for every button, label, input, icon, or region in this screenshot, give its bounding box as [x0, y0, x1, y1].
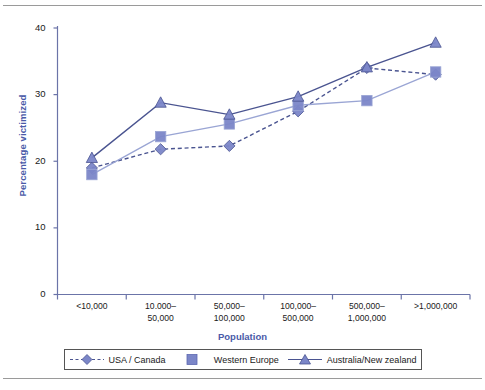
data-point-diamond — [224, 140, 235, 151]
data-point-square — [87, 169, 97, 179]
data-point-triangle — [430, 37, 441, 47]
data-point-diamond — [155, 144, 166, 155]
chart-legend: USA / Canada Western Europe Australia/Ne… — [64, 349, 422, 370]
square-marker-icon — [175, 353, 209, 366]
legend-label-australia-new-zealand: Australia/New zealand — [326, 355, 417, 365]
y-axis-title: Percentage victimized — [17, 91, 28, 201]
y-tick-label: 40 — [20, 22, 46, 33]
y-tick-label: 10 — [20, 221, 46, 232]
x-tick-label: >1,000,000 — [393, 301, 479, 313]
legend-label-usa-canada: USA / Canada — [108, 355, 166, 365]
x-tick-label-line: 1,000,000 — [324, 313, 410, 325]
data-point-square — [155, 131, 165, 141]
y-tick-label: 0 — [20, 288, 46, 299]
series-line-triangle — [92, 43, 436, 158]
series-line-square — [92, 72, 436, 175]
data-point-triangle — [155, 97, 166, 107]
data-point-triangle — [86, 152, 97, 162]
data-point-triangle — [293, 91, 304, 101]
triangle-marker-solid-line-icon — [288, 353, 322, 366]
legend-item-australia-new-zealand[interactable]: Australia/New zealand — [288, 353, 417, 366]
data-point-square — [293, 100, 303, 110]
data-point-square — [224, 119, 234, 129]
x-axis-title: Population — [0, 331, 485, 342]
y-tick-label: 30 — [20, 88, 46, 99]
legend-item-usa-canada[interactable]: USA / Canada — [70, 353, 166, 366]
series-line-diamond — [92, 68, 436, 168]
x-axis-ticks — [58, 295, 471, 300]
x-tick-label-line: >1,000,000 — [393, 301, 479, 313]
y-tick-label: 20 — [20, 155, 46, 166]
series-markers — [86, 37, 441, 180]
data-point-square — [430, 67, 440, 77]
figure: Percentage victimized Population 0102030… — [0, 0, 485, 390]
legend-label-western-europe: Western Europe — [213, 355, 279, 365]
data-point-square — [362, 95, 372, 105]
series-lines — [92, 43, 436, 175]
plot-area: Percentage victimized Population 0102030… — [0, 0, 485, 390]
legend-item-western-europe[interactable]: Western Europe — [175, 353, 279, 366]
diamond-marker-dashed-line-icon — [70, 353, 104, 366]
